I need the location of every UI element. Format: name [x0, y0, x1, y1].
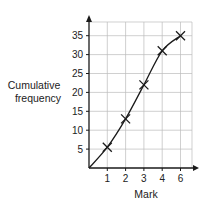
x-tick-label: 1	[105, 173, 111, 184]
y-tick-label: 35	[72, 30, 84, 41]
y-tick-label: 30	[72, 49, 84, 60]
x-tick-label: 6	[178, 173, 184, 184]
cumulative-frequency-chart: 510152025303512346 Mark Cumulative frequ…	[0, 0, 204, 204]
y-tick-label: 15	[72, 106, 84, 117]
x-tick-label: 4	[159, 173, 165, 184]
y-axis-label-line2: frequency	[15, 92, 62, 104]
y-axis-label-line1: Cumulative	[8, 79, 61, 91]
data-curve	[89, 36, 181, 168]
x-tick-label: 2	[123, 173, 129, 184]
y-tick-label: 10	[72, 125, 84, 136]
grid	[89, 22, 192, 168]
x-axis-label: Mark	[134, 188, 158, 200]
x-tick-label: 3	[141, 173, 147, 184]
y-tick-label: 25	[72, 68, 84, 79]
y-tick-label: 20	[72, 87, 84, 98]
axes	[86, 15, 199, 171]
y-tick-label: 5	[77, 144, 83, 155]
